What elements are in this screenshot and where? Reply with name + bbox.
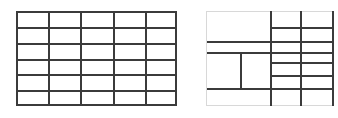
left-grid-vrule-3 bbox=[113, 11, 115, 106]
left-grid-hrule-2 bbox=[16, 43, 177, 45]
left-grid-vrule-2 bbox=[80, 11, 82, 106]
left-grid-vrule-4 bbox=[145, 11, 147, 106]
left-grid-vrule-5 bbox=[175, 11, 177, 106]
left-grid-hrule-1 bbox=[16, 27, 177, 29]
left-grid-hrule-0 bbox=[16, 11, 177, 13]
right-grid-vrule-0 bbox=[206, 11, 207, 106]
figure-irregular-grid bbox=[206, 11, 333, 106]
left-grid-hrule-5 bbox=[16, 90, 177, 92]
right-grid-vrule-1 bbox=[240, 52, 242, 90]
diagram-canvas bbox=[0, 0, 338, 118]
right-grid-vrule-4 bbox=[332, 11, 334, 106]
left-grid-hrule-6 bbox=[16, 104, 177, 106]
left-grid-vrule-1 bbox=[48, 11, 50, 106]
right-grid-vrule-2 bbox=[270, 11, 272, 106]
right-grid-vrule-3 bbox=[300, 11, 302, 106]
left-grid-hrule-3 bbox=[16, 59, 177, 61]
left-grid-vrule-0 bbox=[16, 11, 18, 106]
left-grid-hrule-4 bbox=[16, 74, 177, 76]
figure-regular-grid bbox=[16, 11, 177, 106]
